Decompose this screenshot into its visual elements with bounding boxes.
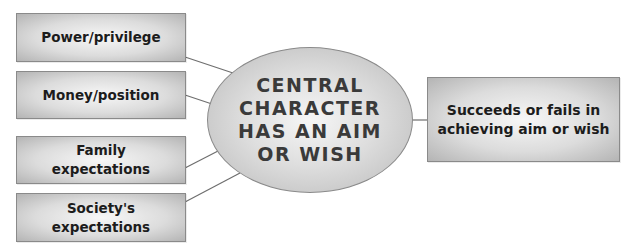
influence-label: Power/privilege: [41, 28, 160, 47]
connector-money: [185, 95, 212, 104]
connector-society: [185, 173, 240, 202]
influence-label: Money/position: [43, 86, 160, 105]
central-character-label: CENTRAL CHARACTER HAS AN AIM OR WISH: [238, 74, 382, 166]
outcome-label: Succeeds or fails in achieving aim or wi…: [438, 101, 610, 139]
story-structure-diagram: Power/privilege Money/position Family ex…: [0, 0, 635, 252]
central-character-ellipse: CENTRAL CHARACTER HAS AN AIM OR WISH: [207, 47, 413, 193]
connector-family: [185, 151, 218, 168]
influence-box-society: Society's expectations: [16, 193, 186, 242]
influence-box-money: Money/position: [16, 71, 186, 119]
influence-box-family: Family expectations: [16, 136, 186, 184]
influence-box-power: Power/privilege: [16, 13, 186, 62]
influence-label: Family expectations: [52, 141, 150, 179]
connector-power: [185, 57, 236, 74]
outcome-box: Succeeds or fails in achieving aim or wi…: [427, 77, 620, 162]
influence-label: Society's expectations: [52, 199, 150, 237]
